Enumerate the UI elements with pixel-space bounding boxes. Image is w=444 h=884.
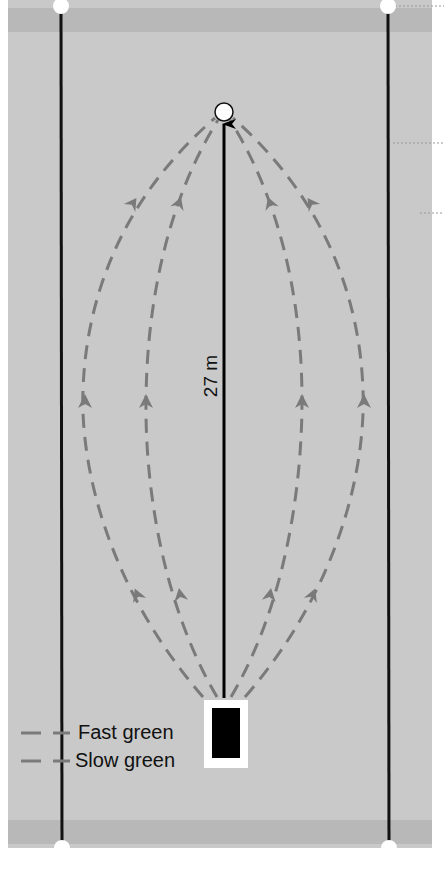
- bottom-edge-band: [8, 820, 432, 844]
- legend-slow-green: Slow green: [75, 750, 175, 770]
- start-block: [212, 708, 240, 758]
- boundary-post-icon: [381, 840, 397, 856]
- right-boundary-line: [388, 6, 389, 848]
- legend-fast-green: Fast green: [78, 722, 174, 742]
- top-edge-band: [8, 8, 432, 32]
- distance-label: 27 m: [200, 355, 222, 397]
- green-diagram: 27 m Fast green Slow green: [0, 0, 444, 884]
- diagram-canvas: [0, 0, 444, 884]
- boundary-post-icon: [54, 840, 70, 856]
- left-boundary-line: [61, 6, 62, 848]
- target-hole-icon: [215, 103, 233, 121]
